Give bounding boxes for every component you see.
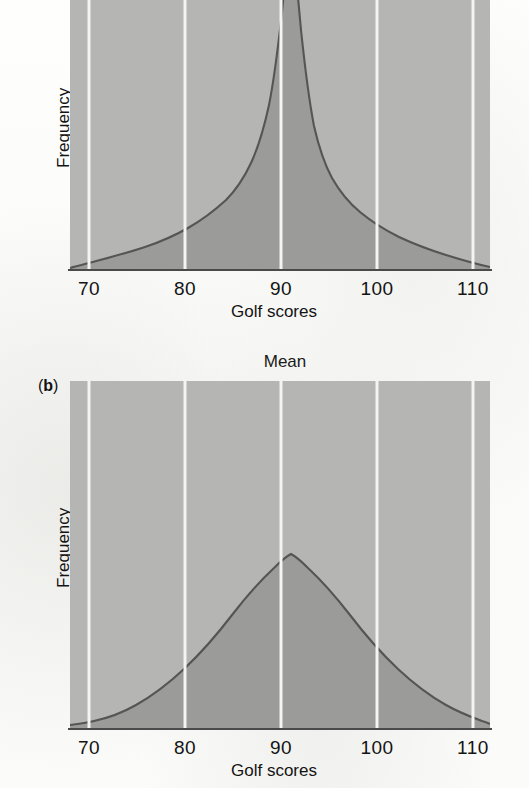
panel-b-tick-110: 110: [449, 737, 497, 759]
panel-b-tick-80: 80: [165, 737, 205, 759]
panel-b-tick-100: 100: [353, 737, 401, 759]
panel-b-gridlines: [89, 381, 473, 728]
panel-a-tick-70: 70: [69, 278, 109, 300]
panel-a-tick-100: 100: [353, 278, 401, 300]
panel-a-x-axis-title: Golf scores: [231, 302, 317, 322]
panel-b-letter-suffix: ): [53, 377, 58, 394]
panel-b-tick-90: 90: [261, 737, 301, 759]
panel-a-x-axis: [68, 269, 492, 271]
panel-a-tick-90: 90: [261, 278, 301, 300]
panel-b-tick-70: 70: [69, 737, 109, 759]
panel-b-plot-background: [70, 381, 490, 728]
panel-a-svg: [70, 0, 490, 269]
panel-a: Frequency 70 80 90 100 110 Golf s: [0, 0, 529, 330]
panel-a-gridlines: [89, 0, 473, 269]
panel-b-mean-annotation: Mean: [245, 352, 325, 372]
panel-b: Mean (b) Frequency 70 80 9: [0, 340, 529, 788]
panel-b-letter: (b): [38, 377, 58, 395]
panel-b-letter-char: b: [43, 377, 53, 394]
panel-b-x-axis-title: Golf scores: [231, 761, 317, 781]
panel-a-plot-background: [70, 0, 490, 269]
panel-a-tick-80: 80: [165, 278, 205, 300]
panel-b-svg: [70, 381, 490, 728]
panel-a-plot-area: [70, 0, 490, 269]
panel-b-plot-area: [70, 381, 490, 728]
panel-a-tick-110: 110: [449, 278, 497, 300]
panel-b-x-axis: [68, 728, 492, 730]
